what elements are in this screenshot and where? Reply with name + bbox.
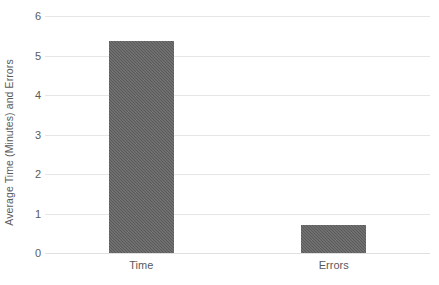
axis-baseline [45,253,430,254]
bar [109,41,174,253]
y-axis-tick-label: 4 [1,90,41,101]
x-axis-tick-labels: TimeErrors [45,258,430,278]
bar-chart: Average Time (Minutes) and Errors 012345… [0,0,439,285]
y-axis-tick-label: 5 [1,50,41,61]
y-axis-tick-labels: 0123456 [0,16,41,253]
gridline [45,214,430,215]
x-axis-tick-label: Errors [319,258,349,272]
gridline [45,174,430,175]
gridline [45,56,430,57]
bar [301,225,366,253]
y-axis-tick-label: 1 [1,208,41,219]
y-axis-tick-label: 0 [1,248,41,259]
gridline [45,16,430,17]
y-axis-tick-label: 3 [1,129,41,140]
x-axis-tick-label: Time [129,258,153,272]
y-axis-tick-label: 2 [1,169,41,180]
gridline [45,95,430,96]
plot-area [45,16,430,253]
gridline [45,135,430,136]
y-axis-tick-label: 6 [1,11,41,22]
